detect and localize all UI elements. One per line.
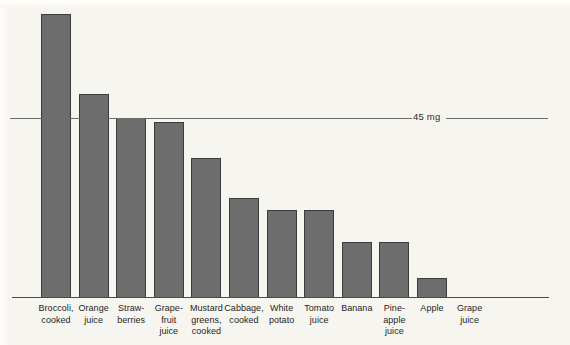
bar <box>417 278 447 298</box>
bar <box>229 198 259 298</box>
bar <box>304 210 334 298</box>
bar <box>41 14 71 298</box>
reference-line-label: 45 mg <box>413 111 440 122</box>
bar <box>342 242 372 298</box>
bar <box>267 210 297 298</box>
reference-line-right-segment <box>446 118 548 119</box>
vitamin-c-bar-chart: 45 mg Broccoli, cookedOrange juiceStraw-… <box>0 0 570 345</box>
x-axis-baseline <box>12 297 549 298</box>
bar <box>154 122 184 298</box>
bar <box>116 118 146 298</box>
reference-line-left-segment <box>10 118 412 119</box>
bar <box>379 242 409 298</box>
bar <box>191 158 221 298</box>
tick-label: Grape juice <box>440 303 500 326</box>
bar <box>79 94 109 298</box>
plot-area: 45 mg Broccoli, cookedOrange juiceStraw-… <box>0 0 570 345</box>
